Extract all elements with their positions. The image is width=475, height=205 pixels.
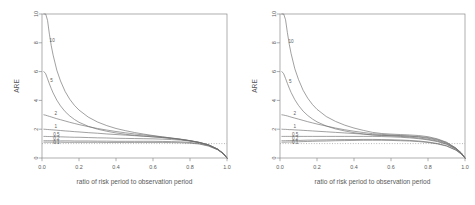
y-tick-label-2-right: 4: [271, 99, 277, 102]
y-tick-label-5-right: 10: [271, 11, 277, 17]
x-axis-title-left: ratio of risk period to observation peri…: [77, 178, 193, 186]
curve-label-1-right: 1: [294, 124, 297, 129]
x-tick-label-4-right: 0.8: [424, 164, 432, 170]
y-tick-label-3-right: 6: [271, 70, 277, 73]
curve-label-0.1-right: 0.1: [292, 140, 299, 145]
figure-canvas: 02468100.00.20.40.60.81.0ratio of risk p…: [0, 0, 475, 205]
y-tick-label-0-right: 0: [271, 157, 277, 160]
y-tick-label-1-left: 2: [33, 128, 39, 131]
x-tick-label-5-right: 1.0: [461, 164, 469, 170]
curve-0.1-left: [44, 142, 227, 158]
curve-10-left: [44, 14, 227, 158]
curve-2-left: [44, 115, 227, 158]
x-tick-label-2-right: 0.4: [350, 164, 358, 170]
curve-label-1-left: 1: [55, 124, 58, 129]
y-tick-label-3-left: 6: [33, 70, 39, 73]
y-axis-title-right: ARE: [251, 79, 258, 93]
curve-5-right: [282, 72, 465, 158]
curve-label-5-right: 5: [289, 79, 292, 84]
plot-panel-left: 02468100.00.20.40.60.81.0ratio of risk p…: [0, 0, 237, 205]
x-tick-label-1-left: 0.2: [75, 164, 83, 170]
curve-0.2-right: [282, 139, 465, 158]
plot-content-right: 02468100.00.20.40.60.81.0ratio of risk p…: [251, 11, 469, 186]
y-axis-title-left: ARE: [13, 79, 20, 93]
x-tick-label-2-left: 0.4: [112, 164, 120, 170]
x-tick-label-3-left: 0.6: [149, 164, 157, 170]
curve-label-2-right: 2: [294, 111, 297, 116]
y-tick-label-4-right: 8: [271, 41, 277, 44]
curve-label-10-right: 10: [289, 39, 295, 44]
curve-label-10-left: 10: [50, 38, 56, 43]
y-tick-label-0-left: 0: [33, 157, 39, 160]
plot-panel-right: 02468100.00.20.40.60.81.0ratio of risk p…: [238, 0, 475, 205]
y-tick-label-1-right: 2: [271, 128, 277, 131]
y-tick-label-2-left: 4: [33, 99, 39, 102]
plot-svg-left: 02468100.00.20.40.60.81.0ratio of risk p…: [0, 0, 237, 205]
plot-content-left: 02468100.00.20.40.60.81.0ratio of risk p…: [13, 11, 231, 186]
x-tick-label-3-right: 0.6: [387, 164, 395, 170]
curve-5-left: [44, 72, 227, 158]
y-tick-label-4-left: 8: [33, 41, 39, 44]
plot-frame-left: [42, 14, 227, 158]
x-tick-label-4-left: 0.8: [186, 164, 194, 170]
x-tick-label-5-left: 1.0: [223, 164, 231, 170]
curve-label-5-left: 5: [50, 78, 53, 83]
x-axis-title-right: ratio of risk period to observation peri…: [315, 178, 431, 186]
curve-0.5-left: [44, 136, 227, 158]
curve-0.1-right: [282, 140, 465, 158]
x-tick-label-0-left: 0.0: [38, 164, 46, 170]
y-tick-label-5-left: 10: [33, 11, 39, 17]
x-tick-label-0-right: 0.0: [276, 164, 284, 170]
x-tick-label-1-right: 0.2: [313, 164, 321, 170]
curve-label-0.1-left: 0.1: [53, 140, 60, 145]
plot-svg-right: 02468100.00.20.40.60.81.0ratio of risk p…: [238, 0, 475, 205]
curve-label-2-left: 2: [55, 111, 58, 116]
